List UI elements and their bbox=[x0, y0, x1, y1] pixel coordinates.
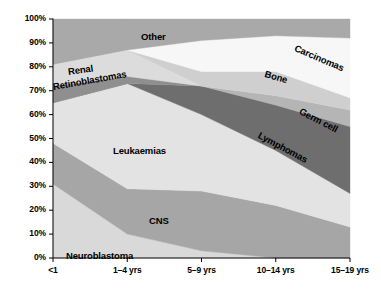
series-label-neuroblastoma: Neuroblastoma bbox=[66, 250, 133, 261]
y-tick-label: 30% bbox=[0, 180, 46, 190]
y-tick-label: 50% bbox=[0, 133, 46, 143]
y-tick-label: 100% bbox=[0, 13, 46, 23]
x-tick-label: 10–14 yrs bbox=[245, 265, 307, 275]
series-label-other: Other bbox=[141, 31, 166, 42]
y-tick-label: 20% bbox=[0, 204, 46, 214]
x-tick-label: 5–9 yrs bbox=[171, 265, 233, 275]
y-tick-label: 80% bbox=[0, 61, 46, 71]
stacked-area-chart: 0%10%20%30%40%50%60%70%80%90%100% <11–4 … bbox=[0, 0, 381, 294]
series-label-cns: CNS bbox=[149, 215, 169, 226]
x-tick-label: 1–4 yrs bbox=[96, 265, 158, 275]
x-tick-label: <1 bbox=[22, 265, 84, 275]
y-tick-label: 60% bbox=[0, 109, 46, 119]
series-label-leukaemias: Leukaemias bbox=[113, 145, 166, 156]
x-tick-label: 15–19 yrs bbox=[319, 265, 381, 275]
y-tick-label: 0% bbox=[0, 252, 46, 262]
y-tick-label: 90% bbox=[0, 37, 46, 47]
y-tick-label: 70% bbox=[0, 85, 46, 95]
y-tick-label: 10% bbox=[0, 228, 46, 238]
chart-plot-area bbox=[0, 0, 381, 294]
y-tick-label: 40% bbox=[0, 156, 46, 166]
